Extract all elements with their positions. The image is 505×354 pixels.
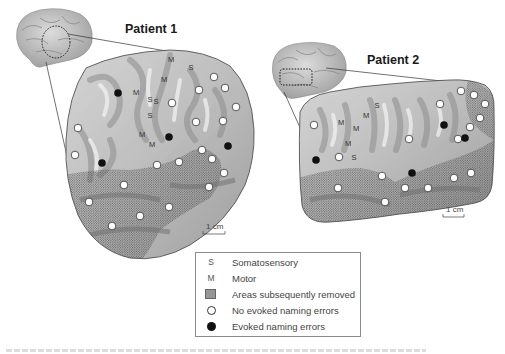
no-error-site-marker xyxy=(195,86,203,94)
legend-item-errors: Evoked naming errors xyxy=(196,319,360,334)
filled-circle-icon xyxy=(205,319,217,334)
error-site-marker xyxy=(98,159,106,167)
no-error-site-marker xyxy=(454,135,462,143)
patient-2-scale-label: 1 cm xyxy=(446,205,463,214)
error-site-marker xyxy=(461,134,469,142)
no-error-site-marker xyxy=(457,87,465,95)
error-site-marker xyxy=(165,133,173,141)
no-error-site-marker xyxy=(192,118,200,126)
no-error-site-marker xyxy=(85,198,93,206)
no-error-site-marker xyxy=(120,181,128,189)
no-error-site-marker xyxy=(335,153,343,161)
no-error-site-marker xyxy=(401,184,409,192)
no-error-site-marker xyxy=(470,91,478,99)
patient-1-panel: MSMMSSSMM xyxy=(17,9,260,265)
no-error-site-marker xyxy=(424,184,432,192)
no-error-site-marker xyxy=(221,84,229,92)
no-error-site-marker xyxy=(310,121,318,129)
patient-2-title: Patient 2 xyxy=(367,53,419,67)
legend-label: No evoked naming errors xyxy=(232,303,339,318)
legend: S Somatosensory M Motor Areas subsequent… xyxy=(195,252,361,337)
legend-item-motor: M Motor xyxy=(196,271,360,286)
error-site-marker xyxy=(408,169,416,177)
motor-label: M xyxy=(139,130,145,139)
patient-2-scale-bar xyxy=(443,214,464,217)
no-error-site-marker xyxy=(205,183,213,191)
patient-2-cortex-map xyxy=(296,76,498,226)
no-error-site-marker xyxy=(175,158,183,166)
patient-1-scale-label: 1 cm xyxy=(206,222,223,231)
no-error-site-marker xyxy=(436,100,444,108)
no-error-site-marker xyxy=(168,99,176,107)
no-error-site-marker xyxy=(467,169,475,177)
no-error-site-marker xyxy=(208,155,216,163)
legend-label: Areas subsequently removed xyxy=(232,287,355,302)
somatosensory-symbol: S xyxy=(205,255,217,270)
motor-symbol: M xyxy=(205,271,217,286)
legend-label: Somatosensory xyxy=(232,255,298,270)
legend-item-somatosensory: S Somatosensory xyxy=(196,255,360,270)
legend-label: Motor xyxy=(232,271,256,286)
no-error-site-marker xyxy=(71,151,79,159)
motor-label: M xyxy=(345,139,351,148)
motor-label: M xyxy=(149,140,155,149)
no-error-site-marker xyxy=(466,123,474,131)
cropped-caption-line xyxy=(6,349,426,352)
open-circle-icon xyxy=(205,303,217,318)
somatosensory-label: S xyxy=(147,95,152,104)
no-error-site-marker xyxy=(405,135,413,143)
no-error-site-marker xyxy=(108,222,116,230)
no-error-site-marker xyxy=(334,184,342,192)
error-site-marker xyxy=(114,89,122,97)
somatosensory-label: S xyxy=(374,101,379,110)
patient-1-title: Patient 1 xyxy=(125,22,177,36)
no-error-site-marker xyxy=(450,174,458,182)
somatosensory-label: S xyxy=(351,153,356,162)
no-error-site-marker xyxy=(136,212,144,220)
error-site-marker xyxy=(224,142,232,150)
no-error-site-marker xyxy=(153,161,161,169)
error-site-marker xyxy=(312,156,320,164)
no-error-site-marker xyxy=(481,100,489,108)
no-error-site-marker xyxy=(210,73,218,81)
no-error-site-marker xyxy=(219,117,227,125)
somatosensory-label: S xyxy=(188,63,193,72)
motor-label: M xyxy=(363,111,369,120)
no-error-site-marker xyxy=(74,124,82,132)
no-error-site-marker xyxy=(232,103,240,111)
motor-label: M xyxy=(353,124,359,133)
stipple-swatch-icon xyxy=(205,287,217,302)
no-error-site-marker xyxy=(165,203,173,211)
no-error-site-marker xyxy=(220,169,228,177)
figure-canvas: MSMMSSSMM xyxy=(0,0,505,354)
no-error-site-marker xyxy=(476,114,484,122)
legend-label: Evoked naming errors xyxy=(232,319,325,334)
motor-label: M xyxy=(133,88,139,97)
no-error-site-marker xyxy=(378,172,386,180)
error-site-marker xyxy=(440,121,448,129)
legend-item-removed-areas: Areas subsequently removed xyxy=(196,287,360,302)
legend-item-no-errors: No evoked naming errors xyxy=(196,303,360,318)
motor-label: M xyxy=(338,118,344,127)
patient-2-panel: SMMMMS xyxy=(272,42,498,226)
somatosensory-label: S xyxy=(153,97,158,106)
no-error-site-marker xyxy=(381,198,389,206)
somatosensory-label: S xyxy=(147,111,152,120)
no-error-site-marker xyxy=(198,146,206,154)
motor-label: M xyxy=(161,75,167,84)
motor-label: M xyxy=(168,55,174,64)
